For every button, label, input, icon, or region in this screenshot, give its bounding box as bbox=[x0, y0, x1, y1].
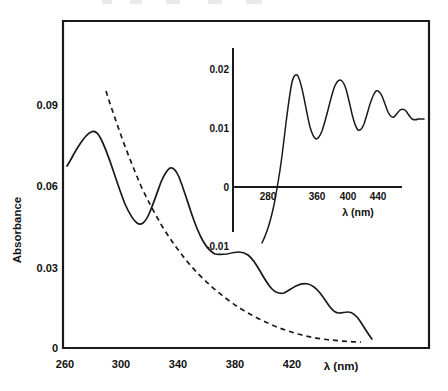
main-solid-curve bbox=[67, 131, 372, 339]
y-tick-label-003: 0.03 bbox=[37, 262, 58, 274]
inset-x-tick-label-400: 400 bbox=[340, 191, 357, 202]
x-tick-label-260: 260 bbox=[56, 358, 74, 370]
solid-spectrum-path bbox=[67, 131, 372, 339]
inset-plot: 0.02 0.01 0 -0.01 280 360 400 440 λ (nm) bbox=[206, 48, 424, 252]
inset-y-tick-label-neg001: -0.01 bbox=[206, 241, 229, 252]
inset-y-tick-label-001: 0.01 bbox=[210, 123, 230, 134]
y-tick-label-009: 0.09 bbox=[37, 99, 58, 111]
inset-y-tick-label-0: 0 bbox=[223, 182, 229, 193]
main-y-axis-ticks: 0 0.03 0.06 0.09 bbox=[37, 99, 58, 354]
main-x-axis-ticks: 260 300 340 380 420 bbox=[56, 358, 301, 370]
x-axis-title: λ (nm) bbox=[324, 360, 359, 372]
y-tick-label-0: 0 bbox=[52, 342, 58, 354]
x-tick-label-380: 380 bbox=[226, 358, 244, 370]
absorbance-spectrum-figure: 0 0.03 0.06 0.09 Absorbance 260 300 340 … bbox=[0, 0, 448, 391]
x-tick-label-340: 340 bbox=[169, 358, 187, 370]
main-y-axis-title-group: Absorbance bbox=[11, 197, 23, 263]
x-tick-label-300: 300 bbox=[112, 358, 130, 370]
y-axis-title: Absorbance bbox=[11, 197, 23, 263]
x-tick-label-420: 420 bbox=[283, 358, 301, 370]
inset-x-axis-title: λ (nm) bbox=[342, 206, 374, 218]
inset-x-tick-label-360: 360 bbox=[309, 191, 326, 202]
inset-x-tick-label-440: 440 bbox=[370, 191, 387, 202]
inset-y-tick-label-002: 0.02 bbox=[210, 64, 230, 75]
y-tick-label-006: 0.06 bbox=[37, 180, 58, 192]
